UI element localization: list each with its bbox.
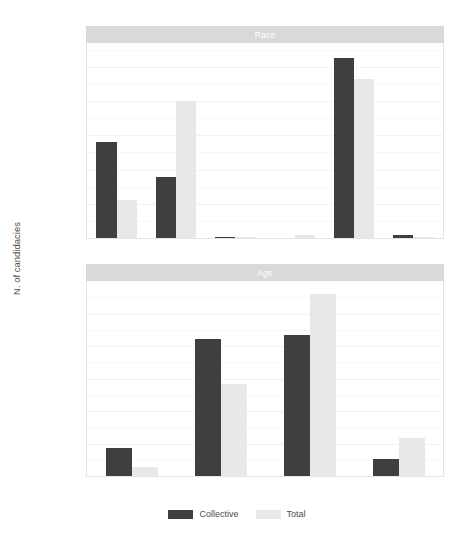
x-axis-tick-mark [176, 238, 177, 239]
y-axis-tick-mark [86, 238, 87, 239]
y-gridline [87, 444, 443, 445]
bar-total-white[interactable] [354, 79, 374, 238]
x-axis-tick-mark [354, 238, 355, 239]
bar-total-no-info[interactable] [295, 235, 315, 238]
x-axis-tick-mark [309, 476, 310, 477]
bar-collective-60[interactable] [373, 459, 399, 476]
bar-total-yellow[interactable] [413, 237, 433, 238]
bar-total-black[interactable] [117, 200, 137, 238]
plot-area-race: 0.0%10.0%20.0%30.0%40.0%50.0%BlackBrownI… [86, 43, 444, 239]
y-gridline [87, 314, 443, 315]
y-gridline [87, 101, 443, 102]
legend: Collective Total [0, 509, 474, 519]
y-gridline-minor [87, 427, 443, 428]
figure-canvas: N. of candidacies Race 0.0%10.0%20.0%30.… [0, 0, 474, 546]
x-axis-tick-mark [398, 476, 399, 477]
bar-collective-brown[interactable] [156, 177, 176, 238]
legend-label-total: Total [287, 509, 306, 519]
y-axis-tick-mark [86, 135, 87, 136]
y-axis-tick-mark [86, 203, 87, 204]
bar-collective-40-59[interactable] [284, 335, 310, 476]
y-gridline [87, 476, 443, 477]
y-gridline-minor [87, 187, 443, 188]
y-gridline [87, 238, 443, 239]
y-gridline-minor [87, 362, 443, 363]
y-gridline-minor [87, 395, 443, 396]
y-gridline-minor [87, 50, 443, 51]
x-axis-tick-mark [116, 238, 117, 239]
facet-label-race: Race [255, 30, 276, 40]
legend-item-total: Total [256, 509, 306, 519]
y-axis-tick-mark [86, 443, 87, 444]
y-gridline [87, 170, 443, 171]
bar-total-60[interactable] [399, 438, 425, 476]
bar-collective-yellow[interactable] [393, 235, 413, 238]
y-axis-tick-mark [86, 101, 87, 102]
y-axis-tick-mark [86, 346, 87, 347]
bar-total-indigenous[interactable] [235, 237, 255, 238]
plot-area-age: 0.0%10.0%20.0%30.0%40.0%50.0%18-2425-394… [86, 281, 444, 477]
facet-strip-race: Race [86, 26, 444, 43]
y-axis-tick-mark [86, 169, 87, 170]
y-gridline-minor [87, 84, 443, 85]
bar-total-25-39[interactable] [221, 384, 247, 476]
y-gridline [87, 411, 443, 412]
y-axis-title: N. of candidacies [11, 189, 22, 329]
x-axis-tick-mark [131, 476, 132, 477]
bar-collective-indigenous[interactable] [215, 237, 235, 238]
y-gridline-minor [87, 118, 443, 119]
x-axis-tick-mark [413, 238, 414, 239]
y-gridline [87, 379, 443, 380]
bar-collective-white[interactable] [334, 58, 354, 238]
facet-strip-age: Age [86, 264, 444, 281]
bar-total-40-59[interactable] [310, 294, 336, 476]
y-axis-tick-mark [86, 313, 87, 314]
y-axis-tick-mark [86, 66, 87, 67]
y-axis-tick-mark [86, 476, 87, 477]
facet-panel-age: Age 0.0%10.0%20.0%30.0%40.0%50.0%18-2425… [86, 264, 444, 477]
y-gridline [87, 135, 443, 136]
y-gridline [87, 346, 443, 347]
y-gridline-minor [87, 221, 443, 222]
legend-swatch-total [256, 510, 281, 519]
bar-collective-25-39[interactable] [195, 339, 221, 476]
y-gridline-minor [87, 330, 443, 331]
bar-total-brown[interactable] [176, 101, 196, 238]
y-gridline [87, 67, 443, 68]
y-gridline-minor [87, 152, 443, 153]
legend-item-collective: Collective [168, 509, 238, 519]
bar-total-18-24[interactable] [132, 467, 158, 476]
x-axis-tick-mark [235, 238, 236, 239]
x-axis-tick-mark [294, 238, 295, 239]
bar-collective-18-24[interactable] [106, 448, 132, 476]
y-gridline-minor [87, 297, 443, 298]
x-axis-tick-mark [220, 476, 221, 477]
legend-swatch-collective [168, 510, 193, 519]
y-axis-tick-mark [86, 411, 87, 412]
bar-collective-black[interactable] [96, 142, 116, 238]
y-gridline [87, 204, 443, 205]
facet-panel-race: Race 0.0%10.0%20.0%30.0%40.0%50.0%BlackB… [86, 26, 444, 239]
facet-label-age: Age [257, 268, 273, 278]
y-axis-tick-mark [86, 378, 87, 379]
legend-label-collective: Collective [199, 509, 238, 519]
